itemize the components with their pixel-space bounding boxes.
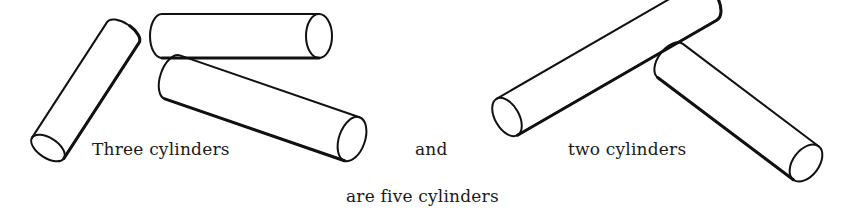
caption-are-five-cylinders: are five cylinders bbox=[346, 186, 499, 206]
caption-and: and bbox=[415, 139, 448, 159]
cylinder-right-2 bbox=[648, 37, 829, 188]
cylinder-left-2 bbox=[150, 14, 332, 58]
caption-three-cylinders: Three cylinders bbox=[92, 139, 230, 159]
cylinder-right-1 bbox=[486, 0, 727, 141]
caption-two-cylinders: two cylinders bbox=[568, 139, 686, 159]
